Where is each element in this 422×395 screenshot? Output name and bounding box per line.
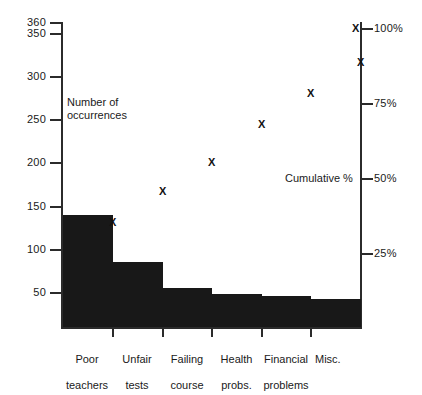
y2-tick-label-50: 50% (374, 173, 397, 184)
bar-health-probs (212, 294, 262, 327)
y-tick-250 (50, 119, 62, 121)
y2-tick-label-75: 75% (374, 98, 397, 109)
x-tick-2 (162, 329, 164, 337)
x-label-line1: Misc. (315, 353, 359, 366)
cumulative-marker-3: X (208, 157, 215, 168)
x-label-unfair-tests: Unfair tests (113, 340, 161, 395)
x-label-poor-teachers: Poor teachers (61, 340, 113, 395)
y-tick-label-100: 100 (10, 244, 46, 255)
y-tick-label-150: 150 (10, 201, 46, 212)
cumulative-marker-1: X (109, 217, 116, 228)
y-axis-title-line2: occurrences (67, 109, 127, 122)
x-label-line1: Unfair (113, 353, 161, 366)
y-axis-title-line1: Number of (67, 96, 118, 109)
x-label-line2: problems (260, 379, 312, 392)
bar-financial-problems (262, 296, 311, 327)
cumulative-marker-6: X (357, 57, 364, 68)
cumulative-marker-4: X (258, 119, 265, 130)
y-tick-50 (50, 292, 62, 294)
bar-unfair-tests (113, 262, 163, 327)
y2-tick-50 (361, 178, 373, 180)
x-label-financial-problems: Financial problems (260, 340, 312, 395)
y-tick-100 (50, 249, 62, 251)
x-label-line1: Poor (61, 353, 113, 366)
y-tick-label-250: 250 (10, 114, 46, 125)
x-label-misc: Misc. (315, 340, 359, 379)
y-tick-label-200: 200 (10, 157, 46, 168)
y-axis-right (360, 22, 362, 329)
y-tick-200 (50, 162, 62, 164)
x-label-line2: probs. (213, 379, 260, 392)
y2-tick-100 (361, 28, 373, 30)
y-tick-label-300: 300 (10, 71, 46, 82)
y-tick-150 (50, 206, 62, 208)
x-label-health-probs: Health probs. (213, 340, 260, 395)
x-tick-1 (112, 329, 114, 337)
x-label-line1: Failing (163, 353, 211, 366)
x-tick-5 (310, 329, 312, 337)
y-tick-350 (50, 33, 62, 35)
y-tick-label-350: 350 (10, 28, 46, 39)
cumulative-marker-5: X (307, 88, 314, 99)
bar-poor-teachers (63, 215, 113, 327)
x-label-line1: Health (213, 353, 260, 366)
x-label-line2: course (163, 379, 211, 392)
bar-misc (311, 299, 361, 327)
y2-tick-75 (361, 103, 373, 105)
x-tick-3 (211, 329, 213, 337)
bar-failing-course (163, 288, 212, 327)
y2-tick-label-100: 100% (374, 23, 403, 34)
y2-tick-25 (361, 253, 373, 255)
y-tick-label-50: 50 (10, 287, 46, 298)
x-label-failing-course: Failing course (163, 340, 211, 395)
y-tick-300 (50, 76, 62, 78)
cumulative-marker-2: X (159, 186, 166, 197)
x-label-line2: tests (113, 379, 161, 392)
x-label-line1: Financial (260, 353, 312, 366)
x-label-line2: teachers (61, 379, 113, 392)
y-tick-360 (50, 22, 62, 24)
cumulative-marker-7: X (352, 23, 359, 34)
y2-tick-label-25: 25% (374, 248, 397, 259)
x-tick-4 (261, 329, 263, 337)
y2-axis-title: Cumulative % (285, 172, 353, 185)
